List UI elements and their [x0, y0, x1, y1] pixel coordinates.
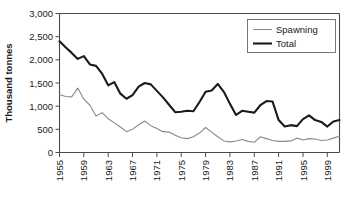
x-tick-label-1959: 1959: [78, 160, 89, 181]
x-tick-label-1975: 1975: [176, 160, 187, 181]
line-chart: 0 500 1,000 1,500 2,000 2,500 3,000 Thou…: [0, 0, 355, 199]
x-tick-label-1987: 1987: [249, 160, 260, 181]
chart-legend: Spawning Total: [248, 20, 336, 53]
y-tick-label-1500: 1,500: [29, 78, 53, 89]
chart-figure: 0 500 1,000 1,500 2,000 2,500 3,000 Thou…: [0, 0, 355, 199]
x-axis-tick-labels: 1955 1959 1963 1967 1971 1975 1979 1983 …: [54, 160, 333, 181]
y-axis-title: Thousand tonnes: [3, 43, 14, 122]
x-tick-label-1979: 1979: [200, 160, 211, 181]
x-tick-label-1963: 1963: [103, 160, 114, 181]
x-tick-label-1971: 1971: [151, 160, 162, 181]
y-tick-label-500: 500: [37, 124, 53, 135]
y-axis-ticks: [56, 14, 60, 153]
x-tick-label-1999: 1999: [322, 160, 333, 181]
series-line-total: [60, 41, 340, 126]
legend-label-total: Total: [276, 38, 296, 49]
x-tick-label-1991: 1991: [273, 160, 284, 181]
legend-label-spawning: Spawning: [276, 24, 318, 35]
x-axis-ticks: [60, 153, 328, 158]
x-tick-label-1983: 1983: [224, 160, 235, 181]
y-axis-tick-labels: 0 500 1,000 1,500 2,000 2,500 3,000: [29, 8, 53, 158]
y-tick-label-2500: 2,500: [29, 31, 53, 42]
y-tick-label-1000: 1,000: [29, 101, 53, 112]
x-tick-label-1995: 1995: [298, 160, 309, 181]
y-tick-label-0: 0: [48, 147, 53, 158]
y-tick-label-2000: 2,000: [29, 54, 53, 65]
series-line-spawning: [60, 88, 340, 142]
y-tick-label-3000: 3,000: [29, 8, 53, 19]
x-tick-label-1955: 1955: [54, 160, 65, 181]
x-tick-label-1967: 1967: [127, 160, 138, 181]
